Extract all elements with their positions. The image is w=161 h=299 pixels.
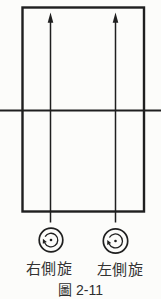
left-rotation-symbol-icon: [39, 228, 63, 252]
right-rotation-center-dot: [114, 240, 117, 243]
figure-2-11: 右側旋 左側旋 圖 2-11: [0, 0, 161, 299]
diagram-canvas: [0, 0, 161, 299]
figure-caption: 圖 2-11: [40, 282, 121, 298]
left-rotation-center-dot: [50, 239, 53, 242]
left-rotation-label: 右側旋: [23, 260, 75, 277]
line-art-group: [0, 8, 161, 254]
right-rotation-symbol-icon: [103, 229, 127, 253]
right-up-arrow-head-icon: [113, 13, 119, 23]
left-up-arrow: [48, 13, 54, 223]
right-up-arrow: [113, 13, 119, 223]
left-up-arrow-head-icon: [48, 13, 54, 23]
right-rotation-label: 左側旋: [94, 261, 146, 278]
